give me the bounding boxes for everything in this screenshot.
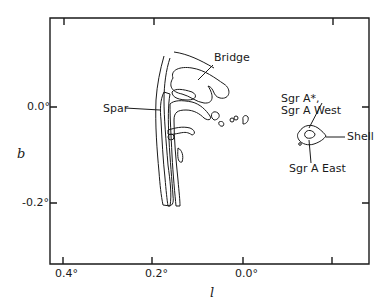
label-sgr-a-east: Sgr A East [289,163,346,175]
label-bridge: Bridge [214,52,250,64]
x-tick-0-2: 0.2° [145,268,168,280]
y-tick-minus-0-2: -0.2° [22,197,49,209]
x-axis-title: l [210,285,214,300]
label-spar: Spar [103,103,128,115]
y-tick-0: 0.0° [27,101,50,113]
x-tick-0-0: 0.0° [235,268,258,280]
y-axis-title: b [17,146,25,161]
contour-plot [0,0,385,304]
label-sgr-a-west: Sgr A West [281,105,341,117]
x-tick-0-4: 0.4° [55,268,78,280]
contours [156,52,326,206]
label-shell: Shell [347,131,374,143]
